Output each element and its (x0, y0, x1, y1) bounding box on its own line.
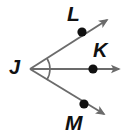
point-label-J: J (9, 57, 20, 77)
point-label-L: L (67, 3, 80, 24)
geometry-figure: J L K M (0, 0, 131, 138)
point-label-K: K (93, 40, 107, 60)
point-K-dot (88, 64, 97, 73)
point-L-dot (77, 27, 86, 36)
ray-JM (30, 69, 104, 114)
point-label-M: M (65, 112, 83, 133)
point-M-dot (79, 99, 88, 108)
